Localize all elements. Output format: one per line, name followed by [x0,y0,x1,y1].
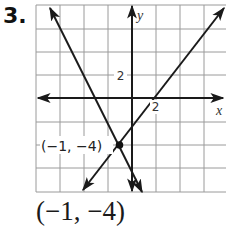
point-label: (−1, −4) [41,138,102,154]
line-1 [50,8,142,192]
answer-text: (−1, −4) [36,196,125,226]
x-tick-label: 2 [152,100,160,114]
intersection-point [116,141,124,149]
y-axis-label: y [135,8,144,23]
coordinate-graph: 2 2 y x (−1, −4) [0,0,226,226]
y-tick-label: 2 [117,69,125,83]
x-axis-label: x [215,103,223,118]
